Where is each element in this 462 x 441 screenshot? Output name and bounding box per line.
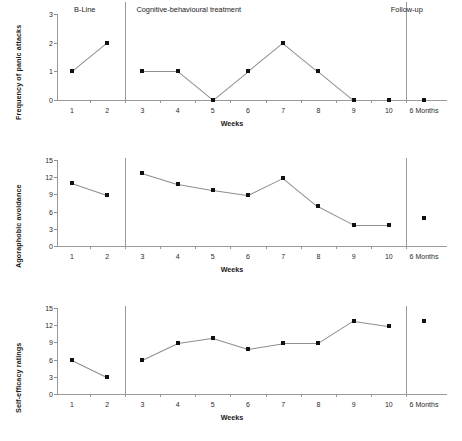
phase-label-treatment: Cognitive-behavioural treatment	[136, 5, 241, 14]
x-axis-tick-label: 6	[246, 107, 250, 114]
data-point-marker	[281, 341, 285, 345]
x-axis-tick-label: 2	[105, 107, 109, 114]
phase-divider-baseline-treatment	[125, 306, 126, 395]
x-axis-tick-mark	[371, 246, 372, 249]
data-point-marker	[387, 223, 391, 227]
y-axis-tick-label: 0	[39, 391, 53, 398]
data-point-marker	[140, 69, 144, 73]
y-axis-tick-mark	[54, 160, 57, 161]
x-axis-tick-mark	[301, 100, 302, 103]
x-axis-tick-mark	[90, 246, 91, 249]
y-axis-tick-mark	[54, 212, 57, 213]
x-axis-tick-label: 1	[70, 253, 74, 260]
data-line-segment	[72, 360, 108, 378]
y-axis-title: Self-efficacy ratings	[14, 343, 23, 413]
data-line-segment	[72, 183, 108, 196]
x-axis-tick-mark	[125, 246, 126, 249]
x-axis-tick-mark	[195, 394, 196, 397]
data-line-segment	[142, 343, 178, 361]
x-axis-tick-label: 6	[246, 401, 250, 408]
data-line-segment	[142, 173, 177, 185]
data-point-marker	[140, 171, 144, 175]
x-axis-tick-label: 6 Months	[410, 401, 439, 408]
x-axis-tick-mark	[371, 100, 372, 103]
y-axis-tick-label: 12	[39, 174, 53, 181]
data-point-marker	[352, 98, 356, 102]
data-line-segment	[213, 71, 249, 100]
y-axis-tick-mark	[54, 377, 57, 378]
data-point-marker	[422, 216, 426, 220]
x-axis-line	[57, 394, 447, 395]
y-axis-title: Agoraphobic avoidance	[14, 184, 23, 268]
x-axis-tick-label: 10	[385, 401, 393, 408]
data-line-segment	[318, 71, 354, 100]
y-axis-tick-mark	[54, 194, 57, 195]
data-line-segment	[177, 71, 213, 100]
data-point-marker	[105, 193, 109, 197]
x-axis-tick-mark	[195, 100, 196, 103]
x-axis-tick-mark	[160, 394, 161, 397]
x-axis-tick-label: 3	[140, 401, 144, 408]
data-point-marker	[316, 341, 320, 345]
y-axis-line	[57, 160, 58, 247]
x-axis-tick-label: 7	[281, 401, 285, 408]
x-axis-tick-mark	[230, 246, 231, 249]
x-axis-tick-mark	[125, 100, 126, 103]
x-axis-tick-mark	[371, 394, 372, 397]
x-axis-tick-label: 8	[316, 107, 320, 114]
x-axis-line	[57, 246, 447, 247]
x-axis-tick-mark	[90, 100, 91, 103]
y-axis-tick-label: 3	[39, 225, 53, 232]
y-axis-tick-mark	[54, 71, 57, 72]
y-axis-tick-mark	[54, 229, 57, 230]
y-axis-tick-mark	[54, 308, 57, 309]
x-axis-tick-mark	[406, 100, 407, 103]
data-point-marker	[422, 98, 426, 102]
x-axis-tick-label: 3	[140, 253, 144, 260]
y-axis-tick-label: 1	[39, 68, 53, 75]
y-axis-tick-label: 2	[39, 39, 53, 46]
x-axis-tick-label: 5	[211, 401, 215, 408]
data-point-marker	[352, 319, 356, 323]
data-line-segment	[283, 343, 318, 344]
x-axis-tick-mark	[266, 246, 267, 249]
y-axis-tick-label: 15	[39, 305, 53, 312]
x-axis-tick-label: 6	[246, 253, 250, 260]
data-line-segment	[72, 43, 108, 72]
x-axis-tick-label: 6 Months	[410, 107, 439, 114]
data-point-marker	[387, 324, 391, 328]
data-point-marker	[316, 204, 320, 208]
data-point-marker	[387, 98, 391, 102]
phase-divider-treatment-followup	[406, 2, 407, 101]
data-line-segment	[354, 225, 389, 226]
chart-panel-agoraphobic-avoidance: 03691215Agoraphobic avoidance12345678910…	[0, 145, 462, 293]
data-line-segment	[318, 206, 354, 225]
x-axis-tick-label: 5	[211, 107, 215, 114]
y-axis-tick-mark	[54, 325, 57, 326]
x-axis-tick-label: 1	[70, 401, 74, 408]
data-line-segment	[177, 184, 212, 191]
phase-label-followup: Follow-up	[391, 5, 423, 14]
x-axis-tick-mark	[406, 394, 407, 397]
y-axis-tick-label: 12	[39, 322, 53, 329]
data-point-marker	[70, 181, 74, 185]
data-point-marker	[211, 336, 215, 340]
x-axis-tick-mark	[125, 394, 126, 397]
phase-label-baseline: B-Line	[74, 5, 95, 14]
x-axis-tick-label: 10	[385, 253, 393, 260]
data-point-marker	[211, 98, 215, 102]
data-line-segment	[213, 190, 248, 196]
x-axis-title: Weeks	[221, 413, 244, 422]
x-axis-tick-label: 8	[316, 401, 320, 408]
phase-divider-treatment-followup	[406, 158, 407, 247]
data-point-marker	[422, 319, 426, 323]
data-line-segment	[178, 338, 213, 344]
data-line-segment	[283, 178, 319, 207]
x-axis-tick-label: 7	[281, 253, 285, 260]
x-axis-tick-mark	[336, 246, 337, 249]
y-axis-tick-label: 9	[39, 339, 53, 346]
y-axis-tick-mark	[54, 177, 57, 178]
data-point-marker	[70, 69, 74, 73]
x-axis-tick-label: 8	[316, 253, 320, 260]
data-point-marker	[176, 341, 180, 345]
